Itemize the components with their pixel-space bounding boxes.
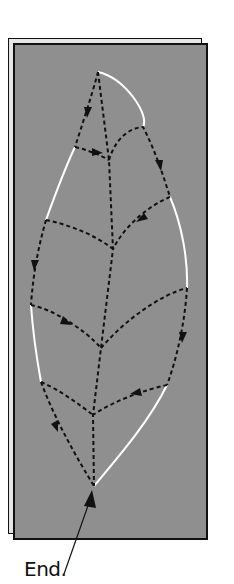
vein-right-3 [101, 288, 187, 348]
vein-right-4 [93, 385, 167, 415]
arrow-icon [155, 160, 163, 171]
outline-right-middle [170, 197, 187, 288]
outline-left-upper [46, 147, 75, 220]
vein-left-4 [41, 382, 93, 415]
end-pointer [64, 490, 96, 574]
outline-right-lower [94, 385, 167, 486]
arrow-icon [51, 420, 58, 432]
arrow-icon [60, 316, 72, 325]
leaf-diagram [0, 0, 234, 584]
end-label: End. [24, 559, 66, 579]
outline-right-top [98, 72, 144, 127]
outline-left-lower [31, 305, 41, 382]
midrib [93, 72, 113, 486]
arrowhead-icon [84, 490, 96, 508]
vein-left-2 [46, 220, 113, 249]
vein-right-2 [113, 197, 170, 249]
vein-left-3 [31, 305, 101, 348]
